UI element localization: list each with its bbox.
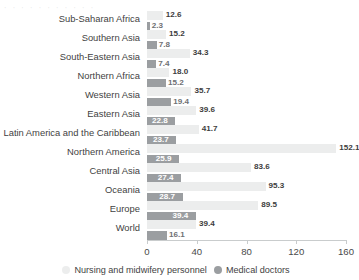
bar-nursing[interactable] [147,68,169,77]
x-axis-tick-label: 0 [144,246,149,257]
chart-row: Southern Asia15.27.8 [0,28,352,47]
bar-doctors[interactable] [147,231,167,240]
bar-value-nursing: 95.3 [269,181,285,190]
chart-row: Northern Africa18.015.2 [0,66,352,85]
chart-row: World39.416.1 [0,218,352,237]
x-axis-tick [247,240,248,244]
bar-value-nursing: 39.6 [199,105,215,114]
top-edge-artifact: ˌ ˌ ˌ ˌ ˌ ˌ ˌ ˌ ˌ ˌ ˌ [0,0,352,9]
bar-group: 39.416.1 [147,218,352,237]
bar-nursing[interactable] [147,30,166,39]
bar-group: 89.539.4 [147,199,352,218]
x-axis-tick-label: 120 [288,246,304,257]
category-label: Central Asia [0,161,144,180]
chart-row: South-Eastern Asia34.37.4 [0,47,352,66]
bar-value-nursing: 15.2 [169,29,185,38]
category-label: Northern Africa [0,66,144,85]
legend-label-nursing: Nursing and midwifery personnel [74,265,206,275]
legend-item-doctors[interactable]: Medical doctors [214,265,290,275]
category-label: Oceania [0,180,144,199]
chart-row: Sub-Saharan Africa12.62.3 [0,9,352,28]
bar-value-nursing: 18.0 [172,67,188,76]
bar-value-nursing: 35.7 [194,86,210,95]
bar-nursing[interactable] [147,125,199,134]
chart-row: Central Asia83.627.4 [0,161,352,180]
category-label: Latin America and the Caribbean [0,123,144,142]
bar-nursing[interactable] [147,87,191,96]
legend-swatch-doctors-icon [214,266,222,274]
x-axis-tick-label: 40 [191,246,202,257]
bar-nursing[interactable] [147,11,163,20]
category-label: Northern America [0,142,144,161]
chart-row: Latin America and the Caribbean41.723.7 [0,123,352,142]
bar-value-nursing: 152.1 [339,143,359,152]
x-axis-tick [346,240,347,244]
bar-value-doctors: 16.1 [169,230,185,239]
category-label: Europe [0,199,144,218]
chart-row: Western Asia35.719.4 [0,85,352,104]
legend-item-nursing[interactable]: Nursing and midwifery personnel [62,265,206,275]
bar-nursing[interactable] [147,163,251,172]
bar-nursing[interactable] [147,220,196,229]
bar-group: 95.328.7 [147,180,352,199]
bar-group: 12.62.3 [147,9,352,28]
bar-group: 39.622.8 [147,104,352,123]
bar-group: 152.125.9 [147,142,352,161]
chart-row: Eastern Asia39.622.8 [0,104,352,123]
bar-value-nursing: 83.6 [254,162,270,171]
bar-nursing[interactable] [147,182,266,191]
bar-value-nursing: 89.5 [261,200,277,209]
bar-group: 41.723.7 [147,123,352,142]
bar-group: 34.37.4 [147,47,352,66]
bar-value-nursing: 39.4 [199,219,215,228]
category-label: World [0,218,144,237]
chart-row: Europe89.539.4 [0,199,352,218]
chart-legend: Nursing and midwifery personnel Medical … [0,263,352,277]
category-label: South-Eastern Asia [0,47,144,66]
category-label: Southern Asia [0,28,144,47]
x-axis-tick-label: 160 [338,246,354,257]
bar-group: 83.627.4 [147,161,352,180]
legend-swatch-nursing-icon [62,266,70,274]
bar-nursing[interactable] [147,106,196,115]
plot-area: Sub-Saharan Africa12.62.3Southern Asia15… [0,9,352,237]
x-axis-tick [197,240,198,244]
bar-group: 18.015.2 [147,66,352,85]
bar-group: 35.719.4 [147,85,352,104]
chart-row: Northern America152.125.9 [0,142,352,161]
x-axis-tick [147,240,148,244]
bar-nursing[interactable] [147,144,336,153]
category-label: Eastern Asia [0,104,144,123]
bar-nursing[interactable] [147,49,190,58]
x-axis-tick [296,240,297,244]
category-label: Sub-Saharan Africa [0,9,144,28]
bar-value-nursing: 41.7 [202,124,218,133]
category-label: Western Asia [0,85,144,104]
bar-nursing[interactable] [147,201,258,210]
bar-group: 15.27.8 [147,28,352,47]
bar-value-nursing: 12.6 [166,10,182,19]
chart-row: Oceania95.328.7 [0,180,352,199]
bar-value-nursing: 34.3 [193,48,209,57]
x-axis-tick-label: 80 [241,246,252,257]
legend-label-doctors: Medical doctors [226,265,290,275]
